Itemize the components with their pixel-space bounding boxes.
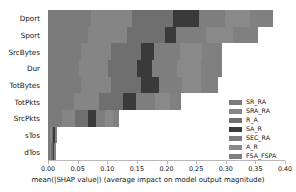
bar-segment-sr_ra bbox=[48, 10, 91, 27]
x-tick-label: 0.20 bbox=[159, 165, 173, 173]
legend-item-sa_r[interactable]: SA_R bbox=[229, 125, 295, 134]
bar-segment-sra_ra bbox=[79, 60, 109, 77]
bar-segment-a_r bbox=[180, 43, 203, 60]
bar-segment-sec_ra bbox=[96, 110, 105, 127]
bar-segment-sra_ra bbox=[88, 27, 127, 44]
bar-segment-r_a bbox=[111, 43, 141, 60]
x-tick-label: 0.25 bbox=[189, 165, 203, 173]
legend-label: A_R bbox=[246, 144, 258, 150]
bar-segment-sa_r bbox=[165, 27, 176, 44]
bar-segment-a_r bbox=[182, 77, 201, 94]
legend-label: SR_RA bbox=[246, 99, 266, 105]
bar-segment-sr_ra bbox=[48, 110, 62, 127]
legend-item-fsa_fspa[interactable]: FSA_FSPA bbox=[229, 152, 295, 161]
bar-dport bbox=[48, 10, 273, 27]
bar-segment-sra_ra bbox=[81, 43, 112, 60]
bar-stos bbox=[48, 127, 57, 144]
bar-segment-sec_ra bbox=[154, 43, 179, 60]
x-tick-label: 0.00 bbox=[41, 165, 55, 173]
bar-sport bbox=[48, 27, 258, 44]
y-tick-label-dtos: dTos bbox=[24, 147, 40, 156]
bar-segment-sr_ra bbox=[48, 43, 81, 60]
legend-item-sr_ra[interactable]: SR_RA bbox=[229, 98, 295, 107]
y-tick-label-totpkts: TotPkts bbox=[15, 97, 40, 106]
x-tick-label: 0.30 bbox=[219, 165, 233, 173]
bar-segment-r_a bbox=[132, 10, 173, 27]
bar-segment-sa_r bbox=[141, 77, 159, 94]
x-tick-mark bbox=[226, 161, 227, 164]
bar-dtos bbox=[48, 143, 56, 160]
bar-segment-sec_ra bbox=[199, 10, 225, 27]
bar-segment-a_r bbox=[105, 110, 113, 127]
bar-segment-sec_ra bbox=[159, 77, 182, 94]
bar-segment-r_a bbox=[111, 77, 141, 94]
legend-item-sra_ra[interactable]: SRA_RA bbox=[229, 107, 295, 116]
bar-segment-fsa_fspa bbox=[250, 10, 273, 27]
bar-segment-sec_ra bbox=[176, 27, 206, 44]
legend-swatch-icon bbox=[229, 109, 242, 114]
y-tick-label-dur: Dur bbox=[27, 64, 40, 73]
bar-segment-sr_ra bbox=[48, 60, 79, 77]
legend-item-sec_ra[interactable]: SEC_RA bbox=[229, 134, 295, 143]
legend: SR_RASRA_RAR_ASA_RSEC_RAA_RFSA_FSPA bbox=[229, 98, 295, 161]
x-tick-label: 0.10 bbox=[100, 165, 114, 173]
bar-dur bbox=[48, 60, 222, 77]
bar-segment-a_r bbox=[177, 60, 201, 77]
legend-swatch-icon bbox=[229, 136, 242, 141]
bar-segment-sr_ra bbox=[48, 93, 74, 110]
bar-segment-r_a bbox=[108, 60, 136, 77]
bar-segment-r_a bbox=[99, 93, 123, 110]
legend-swatch-icon bbox=[229, 127, 242, 132]
bar-segment-sa_r bbox=[173, 10, 199, 27]
y-tick-label-srcpkts: SrcPkts bbox=[14, 114, 40, 123]
x-tick-mark bbox=[285, 161, 286, 164]
bar-totbytes bbox=[48, 77, 218, 94]
legend-label: SRA_RA bbox=[246, 108, 270, 114]
y-tick-label-stos: sTos bbox=[25, 131, 40, 140]
x-tick-mark bbox=[167, 161, 168, 164]
legend-swatch-icon bbox=[229, 100, 242, 105]
x-tick-label: 0.40 bbox=[278, 165, 292, 173]
bar-segment-sra_ra bbox=[81, 77, 112, 94]
x-axis-title: mean(|SHAP value|) (average impact on mo… bbox=[0, 176, 296, 184]
bar-srcbytes bbox=[48, 43, 222, 60]
x-tick-label: 0.35 bbox=[248, 165, 262, 173]
bar-segment-a_r bbox=[206, 27, 234, 44]
bar-segment-r_a bbox=[127, 27, 165, 44]
y-axis-tick-labels: DportSportSrcBytesDurTotBytesTotPktsSrcP… bbox=[0, 10, 44, 160]
legend-label: SEC_RA bbox=[246, 135, 270, 141]
bar-segment-fsa_fspa bbox=[55, 143, 56, 160]
bar-segment-sa_r bbox=[123, 93, 137, 110]
y-tick-label-sport: Sport bbox=[21, 31, 40, 40]
y-tick-label-srcbytes: SrcBytes bbox=[9, 47, 40, 56]
legend-label: R_A bbox=[246, 117, 258, 123]
bar-segment-a_r bbox=[225, 10, 250, 27]
x-tick-mark bbox=[107, 161, 108, 164]
x-tick-mark bbox=[48, 161, 49, 164]
x-tick-mark bbox=[196, 161, 197, 164]
bar-segment-r_a bbox=[75, 110, 87, 127]
bar-segment-fsa_fspa bbox=[170, 93, 181, 110]
y-tick-label-dport: Dport bbox=[20, 14, 40, 23]
bar-segment-sa_r bbox=[137, 60, 152, 77]
legend-swatch-icon bbox=[229, 145, 242, 150]
bar-segment-sec_ra bbox=[136, 93, 154, 110]
bar-segment-sr_ra bbox=[48, 27, 88, 44]
bar-segment-sa_r bbox=[141, 43, 154, 60]
x-tick-label: 0.05 bbox=[71, 165, 85, 173]
legend-item-r_a[interactable]: R_A bbox=[229, 116, 295, 125]
x-tick-mark bbox=[78, 161, 79, 164]
bar-segment-sra_ra bbox=[74, 93, 99, 110]
bar-segment-sra_ra bbox=[62, 110, 75, 127]
bar-totpkts bbox=[48, 93, 181, 110]
shap-summary-bar-chart: DportSportSrcBytesDurTotBytesTotPktsSrcP… bbox=[0, 0, 296, 192]
bar-segment-fsa_fspa bbox=[233, 27, 257, 44]
y-tick-label-totbytes: TotBytes bbox=[9, 81, 40, 90]
bar-segment-a_r bbox=[155, 93, 170, 110]
legend-item-a_r[interactable]: A_R bbox=[229, 143, 295, 152]
bar-segment-sr_ra bbox=[48, 77, 81, 94]
legend-swatch-icon bbox=[229, 154, 242, 159]
bar-segment-sra_ra bbox=[91, 10, 132, 27]
x-axis-ticks: 0.000.050.100.150.200.250.300.350.40 bbox=[48, 161, 285, 173]
x-tick-label: 0.15 bbox=[130, 165, 144, 173]
